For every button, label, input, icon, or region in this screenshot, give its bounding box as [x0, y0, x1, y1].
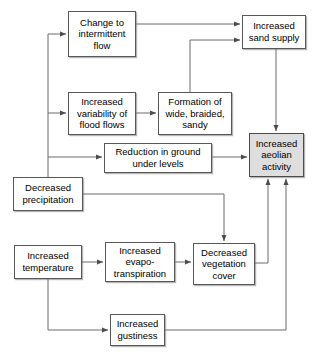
node-increased-sand-supply[interactable]: Increased sand supply	[242, 15, 306, 49]
node-decreased-precipitation[interactable]: Decreased precipitation	[13, 177, 83, 211]
node-label-increased-temperature: Increased temperature	[22, 250, 73, 273]
edge-decreased-precipitation-to-decreased-vegetation-cover	[83, 194, 224, 241]
node-label-decreased-vegetation-cover: Decreased vegetation cover	[201, 247, 247, 282]
node-increased-evapo-transpiration[interactable]: Increased evapo- transpiration	[105, 242, 175, 282]
node-increased-variability-of-flood-flows[interactable]: Increased variability of flood flows	[68, 92, 136, 135]
node-label-increased-gustiness: Increased gustiness	[117, 318, 159, 341]
node-increased-temperature[interactable]: Increased temperature	[14, 245, 82, 279]
node-label-change-to-intermittent-flow: Change to intermittent flow	[79, 17, 126, 52]
node-label-increased-sand-supply: Increased sand supply	[249, 20, 300, 43]
node-increased-gustiness[interactable]: Increased gustiness	[110, 314, 165, 346]
node-decreased-vegetation-cover[interactable]: Decreased vegetation cover	[193, 243, 255, 285]
node-increased-aeolian-activity[interactable]: Increased aeolian activity	[249, 133, 304, 177]
node-label-decreased-precipitation: Decreased precipitation	[22, 182, 73, 205]
edge-decreased-precipitation-trunk-to-change-to-intermittent-flow	[48, 34, 66, 177]
node-label-increased-variability-of-flood-flows: Increased variability of flood flows	[77, 96, 127, 131]
edge-increased-temperature-to-increased-gustiness	[48, 279, 108, 330]
node-label-formation-of-wide-braided-sandy: Formation of wide, braided, sandy	[165, 96, 224, 131]
node-label-increased-evapo-transpiration: Increased evapo- transpiration	[114, 245, 166, 280]
node-label-reduction-in-ground-under-levels: Reduction in ground under levels	[115, 146, 200, 169]
edge-formation-of-wide-braided-sandy-to-increased-sand-supply	[190, 40, 240, 92]
edge-decreased-vegetation-cover-to-increased-aeolian-activity	[255, 179, 268, 263]
node-formation-of-wide-braided-sandy[interactable]: Formation of wide, braided, sandy	[158, 92, 232, 135]
node-reduction-in-ground-under-levels[interactable]: Reduction in ground under levels	[104, 143, 212, 173]
flowchart-diagram: Change to intermittent flowIncreased san…	[0, 0, 322, 355]
node-change-to-intermittent-flow[interactable]: Change to intermittent flow	[68, 11, 136, 57]
node-label-increased-aeolian-activity: Increased aeolian activity	[256, 138, 298, 173]
